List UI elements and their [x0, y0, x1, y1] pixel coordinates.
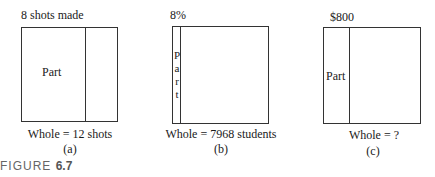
- panel-b-whole-box: P a r t: [172, 26, 269, 124]
- panel-b-part-label-vertical: P a r t: [173, 49, 181, 101]
- panel-b-sub-label: (b): [214, 143, 228, 155]
- panel-c-part-label: Part: [326, 70, 345, 82]
- panel-a-part-divider: [85, 28, 86, 121]
- panel-a-top-label: 8 shots made: [21, 9, 84, 21]
- panel-c-sub-label: (c): [366, 145, 379, 157]
- panel-a-sub-label: (a): [63, 143, 76, 155]
- panel-a-whole-label: Whole = 12 shots: [28, 128, 112, 140]
- panel-b-whole-label: Whole = 7968 students: [165, 128, 276, 140]
- figure-caption-number: 6.7: [56, 159, 73, 173]
- panel-c-whole-box: Part: [323, 27, 421, 124]
- panel-c-part-divider: [349, 28, 350, 123]
- panel-b-top-label: 8%: [170, 9, 186, 21]
- panel-a-whole-box: Part: [21, 27, 118, 122]
- panel-c-whole-label: Whole = ?: [349, 129, 399, 141]
- panel-c-top-label: $800: [330, 11, 354, 23]
- figure-caption: FIGURE 6.7: [0, 159, 72, 173]
- figure-caption-prefix: FIGURE: [0, 159, 51, 173]
- panel-a-part-label: Part: [42, 66, 61, 78]
